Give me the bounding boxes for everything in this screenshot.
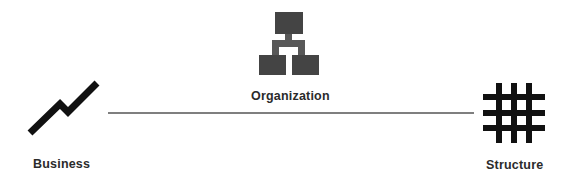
node-label-organization: Organization xyxy=(251,89,330,103)
grid-hash-icon xyxy=(483,83,545,143)
zigzag-trend-icon xyxy=(30,83,97,133)
node-label-business: Business xyxy=(33,157,90,171)
org-chart-icon xyxy=(259,12,319,75)
node-label-structure: Structure xyxy=(486,158,543,172)
